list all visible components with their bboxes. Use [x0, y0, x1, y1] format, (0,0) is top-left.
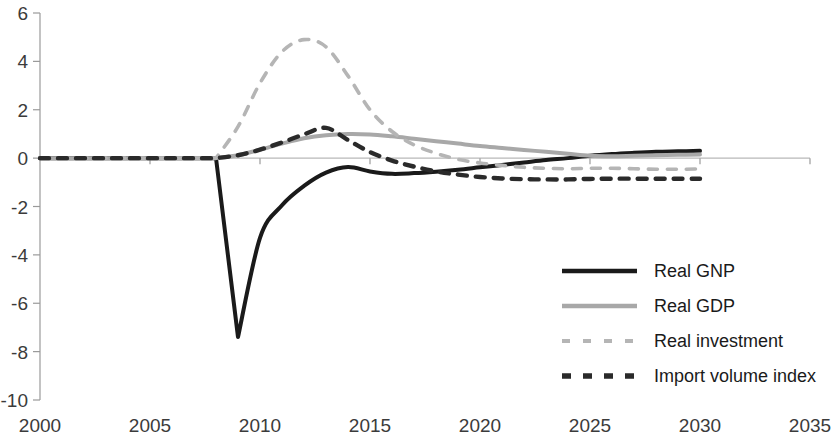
- line-chart: 6420-2-4-6-8-102000200520102015202020252…: [0, 0, 840, 442]
- x-tick-label: 2015: [349, 415, 391, 436]
- chart-container: 6420-2-4-6-8-102000200520102015202020252…: [0, 0, 840, 442]
- y-tick-label: 6: [17, 3, 28, 24]
- legend-label: Import volume index: [654, 366, 816, 386]
- y-tick-label: -2: [11, 197, 28, 218]
- legend-label: Real GDP: [654, 296, 735, 316]
- legend-label: Real investment: [654, 331, 783, 351]
- chart-legend: Real GNPReal GDPReal investmentImport vo…: [562, 261, 816, 386]
- x-tick-label: 2000: [19, 415, 61, 436]
- x-tick-label: 2035: [789, 415, 831, 436]
- series-layer: [40, 39, 700, 337]
- y-tick-label: 2: [17, 100, 28, 121]
- x-tick-label: 2030: [679, 415, 721, 436]
- legend-label: Real GNP: [654, 261, 735, 281]
- x-tick-label: 2010: [239, 415, 281, 436]
- y-tick-label: -10: [1, 390, 28, 411]
- y-tick-label: -8: [11, 342, 28, 363]
- y-tick-label: -4: [11, 245, 28, 266]
- x-tick-label: 2025: [569, 415, 611, 436]
- series-line: [40, 39, 700, 169]
- x-tick-label: 2005: [129, 415, 171, 436]
- y-tick-label: 4: [17, 51, 28, 72]
- x-tick-label: 2020: [459, 415, 501, 436]
- y-tick-label: 0: [17, 148, 28, 169]
- y-tick-label: -6: [11, 293, 28, 314]
